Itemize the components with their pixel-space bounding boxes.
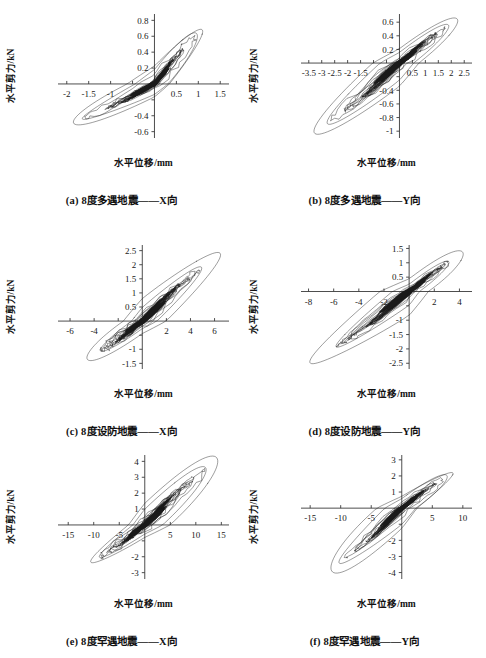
x-axis-label: 水平位移/mm [114, 388, 173, 399]
x-tick-label: -4 [355, 297, 363, 307]
panel-caption-f: (f) 8度罕遇地震——Y向 [243, 633, 486, 648]
y-tick-label: -3 [131, 568, 139, 578]
y-axis-label: 水平剪力/kN [248, 489, 259, 544]
x-tick-label: -4 [90, 326, 98, 336]
x-tick-label: 5 [430, 513, 435, 523]
hysteresis-loop [99, 467, 206, 558]
hysteresis-curve-group [87, 252, 221, 360]
x-tick-label: -1.5 [82, 89, 97, 99]
y-tick-label: 1 [391, 487, 396, 497]
panel-caption-c: (c) 8度设防地震——X向 [0, 423, 243, 438]
x-axis-label: 水平位移/mm [357, 157, 416, 168]
x-axis-label: 水平位移/mm [114, 157, 173, 168]
x-tick-label: 15 [217, 530, 227, 540]
x-tick-label: 2.5 [459, 68, 471, 78]
y-tick-label: -1 [386, 126, 394, 136]
hysteresis-loop [82, 33, 197, 120]
x-tick-label: 2 [164, 326, 169, 336]
y-tick-label: 0.8 [137, 16, 149, 26]
y-tick-label: -0.4 [134, 111, 149, 121]
y-tick-label: -0.6 [379, 99, 394, 109]
hysteresis-plot-b: -3.5-3-2.5-2-1.50.511.522.5-1-0.8-0.6-0.… [243, 0, 486, 186]
x-tick-label: -2.5 [328, 68, 343, 78]
y-tick-label: 0.6 [137, 31, 149, 41]
y-tick-label: -0.8 [379, 113, 394, 123]
y-tick-label: 2 [391, 471, 396, 481]
y-tick-label: -1 [129, 344, 137, 354]
hysteresis-plot-e: -15-10-551015-3-21234水平位移/mm水平剪力/kN [0, 441, 243, 627]
x-tick-label: -15 [62, 530, 74, 540]
y-tick-label: 2 [132, 260, 137, 270]
y-tick-label: 2.5 [125, 246, 137, 256]
x-tick-label: 0.5 [171, 89, 183, 99]
x-tick-label: -2 [344, 68, 352, 78]
hysteresis-core-cluster [130, 68, 169, 96]
x-tick-label: -8 [305, 297, 313, 307]
hysteresis-plot-d: -8-6-4-224-2.5-2-1.5-10.511.5水平位移/mm水平剪力… [243, 231, 486, 417]
y-axis-label: 水平剪力/kN [248, 279, 259, 334]
x-tick-label: 2 [432, 297, 437, 307]
x-tick-label: -3 [318, 68, 326, 78]
panel-c: -6-4246-1.5-10.511.522.5水平位移/mm水平剪力/kN (… [0, 231, 243, 441]
panel-caption-a: (a) 8度多遇地震——X向 [0, 192, 243, 207]
x-tick-label: 4 [188, 326, 193, 336]
x-tick-label: -10 [335, 513, 347, 523]
y-tick-label: -1.5 [389, 330, 404, 340]
plot-b: -3.5-3-2.5-2-1.50.511.522.5-1-0.8-0.6-0.… [243, 0, 486, 186]
x-axis-label: 水平位移/mm [357, 598, 416, 609]
x-tick-label: 1.5 [215, 89, 227, 99]
x-tick-label: 10 [458, 513, 468, 523]
x-tick-label: -2 [63, 89, 71, 99]
panel-caption-d: (d) 8度设防地震——Y向 [243, 423, 486, 438]
y-tick-label: 0.4 [137, 47, 149, 57]
figure-grid: -2-1.5-10.511.5-0.6-0.40.20.40.60.8水平位移/… [0, 0, 486, 658]
panel-caption-b: (b) 8度多遇地震——Y向 [243, 192, 486, 207]
panel-b: -3.5-3-2.5-2-1.50.511.522.5-1-0.8-0.6-0.… [243, 0, 486, 231]
y-axis-label: 水平剪力/kN [5, 489, 16, 544]
y-tick-label: 1 [134, 504, 139, 514]
x-tick-label: 1.5 [433, 68, 445, 78]
y-tick-label: 1 [399, 258, 404, 268]
plot-e: -15-10-551015-3-21234水平位移/mm水平剪力/kN [0, 441, 243, 627]
hysteresis-plot-f: -15-10-5510-4-3-2123水平位移/mm水平剪力/kN [243, 441, 486, 627]
hysteresis-plot-c: -6-4246-1.5-10.511.522.5水平位移/mm水平剪力/kN [0, 231, 243, 417]
hysteresis-plot-a: -2-1.5-10.511.5-0.6-0.40.20.40.60.8水平位移/… [0, 0, 243, 186]
y-tick-label: 2 [134, 488, 139, 498]
panel-e: -15-10-551015-3-21234水平位移/mm水平剪力/kN (e) … [0, 441, 243, 658]
hysteresis-curve-group [310, 251, 463, 364]
y-axis-label: 水平剪力/kN [5, 48, 16, 103]
y-tick-label: 1 [132, 288, 137, 298]
y-tick-label: -2.5 [389, 358, 404, 368]
y-tick-label: -4 [388, 568, 396, 578]
x-tick-label: 1 [196, 89, 201, 99]
y-axis-label: 水平剪力/kN [248, 48, 259, 103]
y-tick-label: 3 [134, 472, 139, 482]
plot-a: -2-1.5-10.511.5-0.6-0.40.20.40.60.8水平位移/… [0, 0, 243, 186]
y-tick-label: -1.5 [122, 359, 137, 369]
y-tick-label: -2 [396, 344, 404, 354]
y-tick-label: 0.4 [382, 31, 394, 41]
x-tick-label: -1 [107, 89, 115, 99]
y-tick-label: 0.5 [392, 272, 404, 282]
y-tick-label: -2 [131, 552, 139, 562]
panel-caption-e: (e) 8度罕遇地震——X向 [0, 633, 243, 648]
y-axis-label: 水平剪力/kN [5, 279, 16, 334]
x-tick-label: 4 [457, 297, 462, 307]
y-tick-label: 0.2 [137, 63, 148, 73]
panel-f: -15-10-5510-4-3-2123水平位移/mm水平剪力/kN (f) 8… [243, 441, 486, 658]
y-tick-label: 3 [391, 455, 396, 465]
plot-d: -8-6-4-224-2.5-2-1.5-10.511.5水平位移/mm水平剪力… [243, 231, 486, 417]
y-tick-label: -3 [388, 552, 396, 562]
x-axis-label: 水平位移/mm [357, 388, 416, 399]
hysteresis-core-cluster [380, 498, 417, 527]
hysteresis-curve-group [91, 456, 218, 563]
plot-c: -6-4246-1.5-10.511.522.5水平位移/mm水平剪力/kN [0, 231, 243, 417]
panel-d: -8-6-4-224-2.5-2-1.5-10.511.5水平位移/mm水平剪力… [243, 231, 486, 441]
x-axis-label: 水平位移/mm [114, 598, 173, 609]
y-tick-label: 0.2 [382, 45, 393, 55]
plot-f: -15-10-5510-4-3-2123水平位移/mm水平剪力/kN [243, 441, 486, 627]
y-tick-label: 4 [134, 457, 139, 467]
x-tick-label: -6 [330, 297, 338, 307]
x-tick-label: 5 [168, 530, 173, 540]
y-tick-label: 1.5 [392, 244, 404, 254]
